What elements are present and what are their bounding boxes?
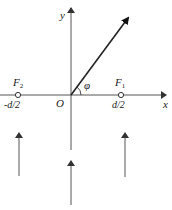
f2-label: F2 (12, 76, 24, 90)
focus-point-f1 (118, 92, 123, 97)
f2-position-label: -d/2 (4, 99, 20, 110)
f1-label: F1 (114, 76, 126, 90)
diagram-canvas: x y O φ F2 -d/2 F1 d/2 (0, 0, 172, 210)
f1-position-label: d/2 (112, 99, 125, 110)
origin-label: O (56, 97, 64, 109)
y-axis-label: y (59, 9, 65, 21)
focus-point-f2 (15, 92, 20, 97)
angle-label: φ (84, 79, 90, 91)
angle-arc (77, 87, 81, 95)
x-axis-label: x (162, 98, 168, 110)
